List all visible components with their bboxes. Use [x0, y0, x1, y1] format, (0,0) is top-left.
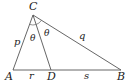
bisector-cd [33, 15, 51, 70]
angle-label-theta-left: θ [30, 33, 36, 43]
side-label-r: r [29, 70, 35, 81]
side-cb [33, 15, 121, 70]
vertex-label-c: C [29, 0, 38, 13]
side-label-q: q [79, 30, 85, 41]
angle-label-theta-right: θ [44, 28, 50, 38]
angle-bisector-diagram: C A D B p q r s θ θ [0, 0, 130, 83]
vertex-label-a: A [4, 70, 13, 83]
side-label-s: s [84, 70, 89, 81]
angle-arc-left [30, 24, 36, 25]
side-label-p: p [14, 36, 21, 47]
vertex-label-b: B [116, 70, 125, 83]
vertex-label-d: D [46, 70, 56, 83]
angle-arc-right [36, 20, 41, 24]
